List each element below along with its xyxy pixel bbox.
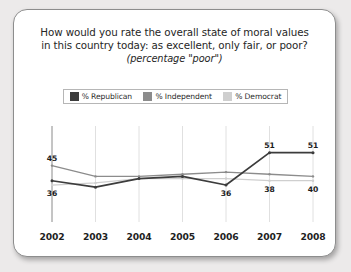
legend-swatch-icon — [223, 92, 232, 101]
page-title-line-1: How would you rate the overall state of … — [14, 26, 335, 39]
chart-plot-area: 45363651385140 — [38, 126, 323, 222]
chart-subtitle: (percentage "poor") — [14, 52, 335, 66]
legend-item-republican[interactable]: % Republican — [70, 92, 132, 101]
line-chart-svg — [38, 126, 323, 222]
data-point-label: 38 — [264, 185, 275, 194]
legend-label-democrat: % Democrat — [235, 92, 281, 101]
chart-legend: % Republican % Independent % Democrat — [63, 89, 288, 104]
x-axis-tick-label: 2008 — [301, 231, 326, 242]
x-axis-tick-label: 2007 — [257, 231, 282, 242]
chart-title-block: How would you rate the overall state of … — [14, 26, 335, 66]
x-axis-tick-label: 2003 — [83, 231, 108, 242]
legend-swatch-icon — [70, 92, 79, 101]
x-axis-tick-label: 2006 — [214, 231, 239, 242]
data-point-label: 36 — [47, 189, 58, 198]
legend-label-republican: % Republican — [82, 92, 132, 101]
legend-label-independent: % Independent — [155, 92, 211, 101]
legend-item-democrat[interactable]: % Democrat — [223, 92, 281, 101]
data-point-label: 51 — [308, 141, 319, 150]
data-point-label: 45 — [47, 154, 58, 163]
legend-swatch-icon — [143, 92, 152, 101]
x-axis: 2002200320042005200620072008 — [38, 222, 323, 248]
chart-card: How would you rate the overall state of … — [13, 9, 336, 257]
data-point-label: 40 — [308, 185, 319, 194]
page-title-line-2: in this country today: as excellent, onl… — [14, 39, 335, 52]
x-axis-tick-label: 2002 — [40, 231, 65, 242]
x-axis-tick-label: 2005 — [170, 231, 195, 242]
x-axis-tick-label: 2004 — [127, 231, 152, 242]
data-point-label: 51 — [264, 141, 275, 150]
data-point-label: 36 — [221, 189, 232, 198]
legend-item-independent[interactable]: % Independent — [143, 92, 211, 101]
